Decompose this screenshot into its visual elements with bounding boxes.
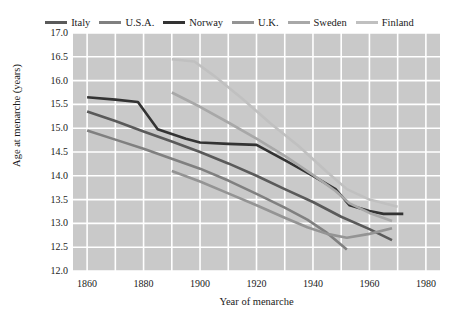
chart-container: ItalyU.S.A.NorwayU.K.SwedenFinland 17.01…: [0, 0, 459, 325]
y-tick-label: 13.0: [34, 218, 68, 228]
legend-swatch-icon: [356, 21, 378, 24]
y-tick-label: 16.0: [34, 76, 68, 86]
legend-label: U.K.: [258, 17, 278, 28]
legend-label: U.S.A.: [125, 17, 154, 28]
y-tick-label: 12.0: [34, 266, 68, 276]
y-tick-label: 15.5: [34, 99, 68, 109]
data-lines: [73, 33, 440, 271]
legend-label: Finland: [382, 17, 414, 28]
legend-swatch-icon: [163, 21, 185, 24]
y-tick-label: 17.0: [34, 28, 68, 38]
series-line-norway: [87, 97, 403, 214]
legend-swatch-icon: [232, 21, 254, 24]
y-tick-label: 16.5: [34, 52, 68, 62]
legend-swatch-icon: [45, 21, 67, 24]
x-tick-label: 1880: [121, 279, 167, 289]
x-tick-label: 1860: [64, 279, 110, 289]
y-tick-label: 15.0: [34, 123, 68, 133]
series-line-italy: [87, 112, 392, 241]
x-tick-label: 1980: [403, 279, 449, 289]
legend-swatch-icon: [288, 21, 310, 24]
y-tick-label: 12.5: [34, 242, 68, 252]
legend-label: Norway: [189, 17, 223, 28]
legend-item-norway[interactable]: Norway: [163, 17, 223, 28]
y-axis-ticks: 17.016.516.015.515.014.514.013.513.012.5…: [30, 33, 68, 271]
plot-area: [73, 33, 440, 271]
chart-legend: ItalyU.S.A.NorwayU.K.SwedenFinland: [0, 14, 459, 30]
legend-item-finland[interactable]: Finland: [356, 17, 414, 28]
legend-swatch-icon: [99, 21, 121, 24]
x-tick-label: 1960: [346, 279, 392, 289]
legend-item-uk[interactable]: U.K.: [232, 17, 278, 28]
series-line-sweden: [172, 93, 392, 222]
y-tick-label: 14.0: [34, 171, 68, 181]
y-axis-title: Age at menarche (years): [11, 36, 22, 196]
legend-item-usa[interactable]: U.S.A.: [99, 17, 154, 28]
x-tick-label: 1920: [234, 279, 280, 289]
x-axis-ticks: 1860188019001920194019601980: [73, 279, 440, 293]
series-line-uk: [172, 171, 392, 238]
legend-label: Sweden: [314, 17, 347, 28]
legend-item-sweden[interactable]: Sweden: [288, 17, 347, 28]
series-line-usa: [87, 131, 347, 250]
x-tick-label: 1940: [290, 279, 336, 289]
x-tick-label: 1900: [177, 279, 223, 289]
y-tick-label: 14.5: [34, 147, 68, 157]
x-axis-title: Year of menarche: [73, 296, 440, 307]
legend-label: Italy: [71, 17, 90, 28]
y-tick-label: 13.5: [34, 195, 68, 205]
legend-item-italy[interactable]: Italy: [45, 17, 90, 28]
